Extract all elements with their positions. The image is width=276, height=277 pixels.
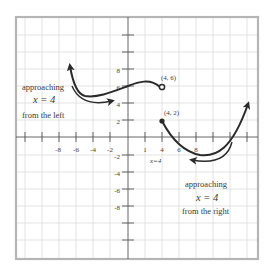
x-tick-label: 6	[177, 146, 181, 154]
left-note-line2: x = 4	[32, 94, 56, 105]
left-curve	[70, 66, 160, 96]
y-tick-label: -4	[114, 170, 120, 178]
x-tick-label: -2	[107, 146, 113, 154]
open-circle-point	[159, 84, 164, 89]
x-tick-label: -4	[90, 146, 96, 154]
x-equals-4-marker: x=4	[149, 157, 162, 165]
y-tick-label: 8	[117, 67, 121, 75]
grid-lines	[16, 17, 258, 259]
right-note-line1: approaching	[185, 179, 228, 189]
x-tick-label: 1	[143, 146, 147, 154]
open-point-label: (4, 6)	[161, 74, 177, 82]
right-note-line2: x = 4	[195, 192, 219, 203]
y-tick-label: 4	[117, 101, 121, 109]
x-tick-label: -8	[55, 146, 61, 154]
right-note-line3: from the right	[182, 206, 230, 216]
limit-graph-figure: -8 -6 -4 -2 1 4 6 8 8 6 4 2 -2 -4 -6 -8 …	[0, 0, 276, 277]
x-tick-labels: -8 -6 -4 -2 1 4 6 8	[55, 146, 198, 154]
closed-dot-point	[159, 118, 164, 123]
x-tick-label: 4	[160, 146, 164, 154]
left-note-line3: from the left	[22, 110, 65, 120]
y-tick-label: -6	[114, 187, 120, 195]
left-note-line1: approaching	[22, 82, 65, 92]
y-tick-label: -2	[114, 153, 120, 161]
closed-point-label: (4, 2)	[164, 109, 180, 117]
graph-canvas: -8 -6 -4 -2 1 4 6 8 8 6 4 2 -2 -4 -6 -8 …	[0, 0, 276, 277]
y-tick-label: 2	[117, 118, 121, 126]
x-tick-label: -6	[73, 146, 79, 154]
y-tick-label: -8	[114, 204, 120, 212]
